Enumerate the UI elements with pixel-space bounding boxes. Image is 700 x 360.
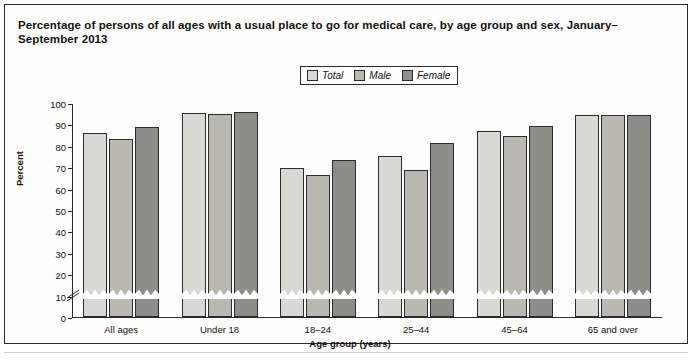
y-tick-label: 20 — [42, 270, 66, 281]
legend-item-female: Female — [402, 70, 450, 81]
bar-male — [306, 175, 330, 317]
y-tick-mark — [68, 104, 72, 105]
y-tick-mark — [68, 254, 72, 255]
bar-total — [575, 115, 599, 317]
legend-swatch-total — [307, 70, 318, 81]
page-title: Percentage of persons of all ages with a… — [18, 18, 658, 46]
legend-label-male: Male — [369, 70, 391, 81]
bar-male — [404, 170, 428, 317]
y-tick-label: 30 — [42, 248, 66, 259]
bar-female — [430, 143, 454, 317]
bar-female — [529, 126, 553, 317]
bottom-rule — [4, 352, 688, 353]
bar-group — [378, 105, 454, 317]
bar-female — [234, 112, 258, 317]
y-tick-label: 40 — [42, 227, 66, 238]
y-tick-label: 50 — [42, 206, 66, 217]
y-tick-label: 80 — [42, 141, 66, 152]
bar-male — [601, 115, 625, 317]
bar-male — [208, 114, 232, 317]
bar-total — [83, 133, 107, 317]
legend-item-total: Total — [307, 70, 343, 81]
y-tick-label: 90 — [42, 120, 66, 131]
y-tick-mark — [68, 147, 72, 148]
x-tick-label: 65 and over — [553, 324, 673, 335]
y-tick-mark — [68, 232, 72, 233]
y-tick-mark — [68, 190, 72, 191]
y-tick-label: 100 — [42, 99, 66, 110]
y-tick-mark — [68, 168, 72, 169]
y-tick-mark — [68, 211, 72, 212]
legend-label-female: Female — [417, 70, 450, 81]
chart-legend: Total Male Female — [300, 66, 458, 85]
bar-total — [182, 113, 206, 317]
x-axis-line — [72, 317, 662, 318]
y-axis-break-icon — [67, 287, 79, 301]
bar-total — [477, 131, 501, 317]
y-tick-mark — [68, 275, 72, 276]
bar-male — [503, 136, 527, 317]
bar-group — [182, 105, 258, 317]
x-axis-label: Age group (years) — [0, 338, 700, 349]
y-axis-line — [72, 104, 73, 318]
y-axis-label: Percent — [14, 151, 25, 186]
plot-area: 0102030405060708090100All agesUnder 1818… — [72, 104, 662, 318]
legend-label-total: Total — [322, 70, 343, 81]
y-tick-label: 0 — [42, 313, 66, 324]
y-tick-label: 70 — [42, 163, 66, 174]
legend-swatch-male — [354, 70, 365, 81]
bar-female — [135, 127, 159, 317]
legend-swatch-female — [402, 70, 413, 81]
y-tick-label: 10 — [42, 291, 66, 302]
bar-group — [477, 105, 553, 317]
y-tick-mark — [68, 297, 72, 298]
bar-total — [280, 168, 304, 317]
bar-female — [627, 115, 651, 317]
y-tick-mark — [68, 125, 72, 126]
bar-group — [280, 105, 356, 317]
bar-male — [109, 139, 133, 317]
bar-group — [575, 105, 651, 317]
figure-root: Percentage of persons of all ages with a… — [0, 0, 700, 360]
y-tick-mark — [68, 318, 72, 319]
y-tick-label: 60 — [42, 184, 66, 195]
legend-item-male: Male — [354, 70, 391, 81]
bar-group — [83, 105, 159, 317]
bar-female — [332, 160, 356, 317]
bar-total — [378, 156, 402, 317]
